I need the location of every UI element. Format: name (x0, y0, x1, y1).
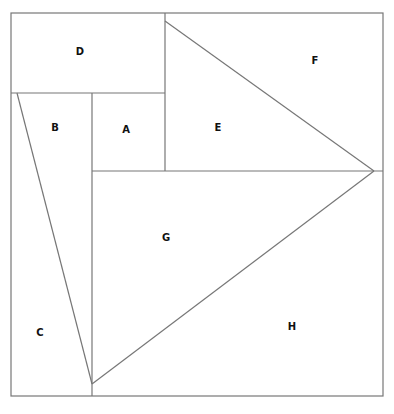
g-h-diagonal (92, 171, 374, 384)
label-e: E (215, 122, 222, 133)
label-b: B (51, 122, 59, 133)
label-a: A (122, 124, 130, 135)
outer-square (11, 13, 383, 396)
label-h: H (288, 321, 296, 332)
label-g: G (162, 232, 170, 243)
label-c: C (36, 327, 43, 338)
label-d: D (76, 46, 84, 57)
label-f: F (312, 55, 319, 66)
e-f-diagonal (165, 21, 374, 171)
b-c-diagonal (17, 93, 92, 384)
dissection-diagram: A B C D E F G H (0, 0, 394, 414)
